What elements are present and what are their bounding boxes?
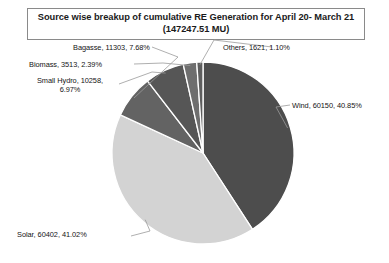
data-label-biomass: Biomass, 3513, 2.39% bbox=[29, 60, 102, 69]
data-label-solar: Solar, 60402, 41.02% bbox=[17, 230, 87, 239]
data-label-small-hydro: Small Hydro, 10258, 6.97% bbox=[31, 76, 109, 94]
pie-chart-canvas bbox=[0, 0, 389, 263]
data-label-wind: Wind, 60150, 40.85% bbox=[292, 101, 362, 110]
pie-slices-group bbox=[112, 62, 294, 244]
pie-chart-figure: Source wise breakup of cumulative RE Gen… bbox=[0, 0, 389, 263]
data-label-bagasse: Bagasse, 11303, 7.68% bbox=[73, 43, 150, 52]
data-label-others: Others, 1621, 1.10% bbox=[223, 43, 290, 52]
